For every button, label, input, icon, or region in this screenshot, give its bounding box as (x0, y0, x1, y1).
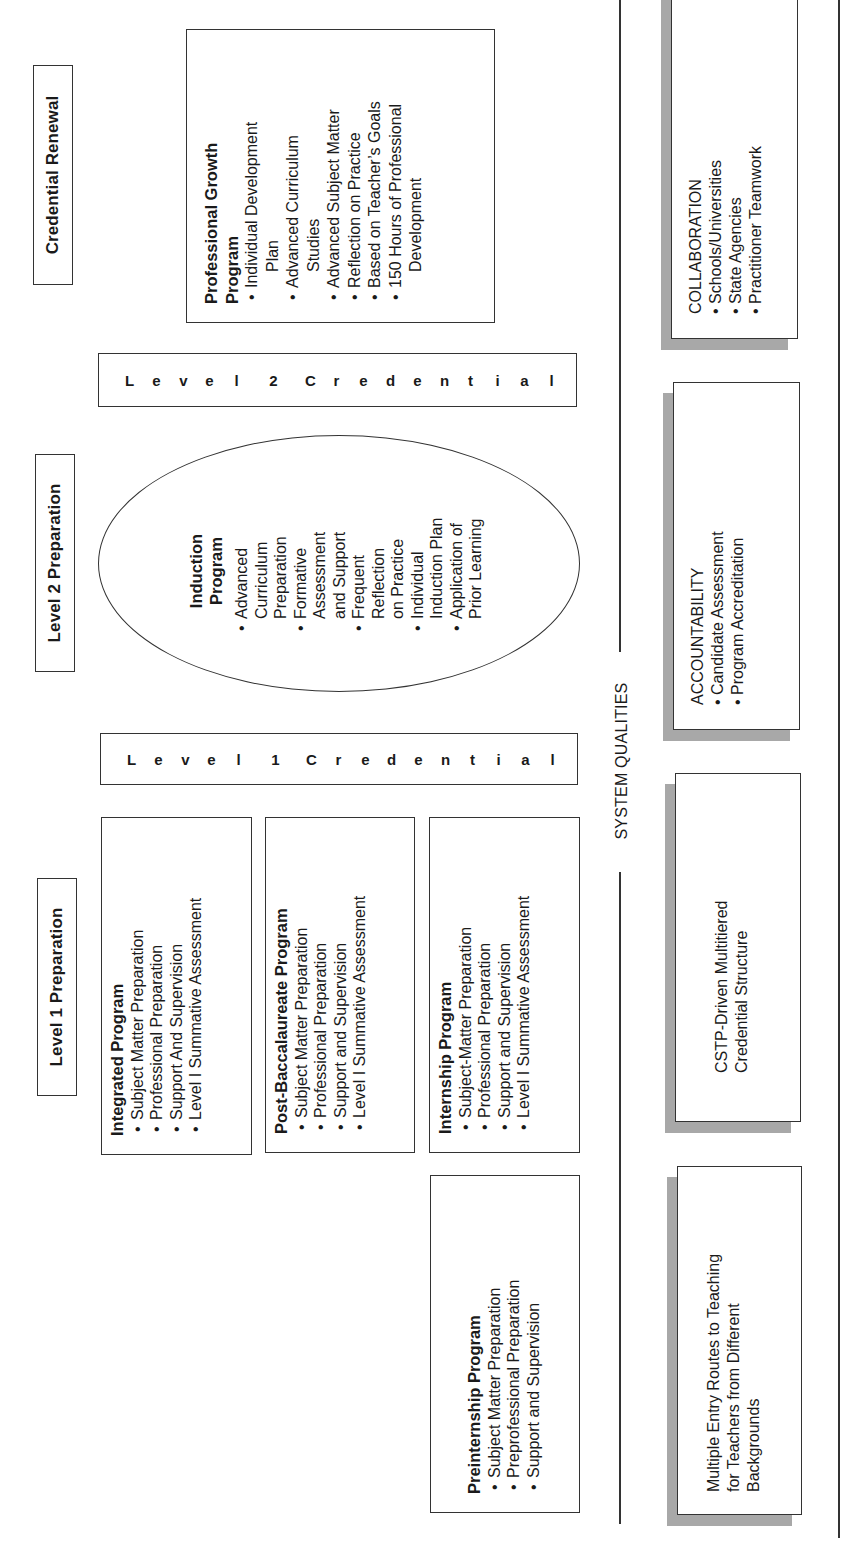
system-qualities-label: SYSTEM QUALITIES (613, 652, 631, 870)
professional-growth-item-line: Based on Teacher’s Goals (365, 30, 386, 288)
preinternship-program-title: Preinternship Program (465, 1176, 485, 1494)
level2-preparation-label: Level 2 Preparation (45, 484, 65, 643)
induction-item-line: Curriculum (252, 511, 272, 619)
credential-letter: C (305, 751, 319, 768)
credential-letter: 1 (268, 751, 282, 768)
credential-letter: l (545, 751, 559, 768)
multiple-entry-line: for Teachers from Different (724, 1167, 744, 1492)
preinternship-program-box: Preinternship Program Subject Matter Pre… (430, 1175, 580, 1513)
professional-growth-item: Reflection on Practice (345, 30, 366, 300)
induction-item-line: and Support (330, 511, 350, 619)
credential-letter: t (464, 372, 478, 389)
induction-item: Individual Induction Plan (408, 511, 447, 631)
internship-item: Professional Preparation (475, 818, 495, 1130)
collaboration-box: COLLABORATION Schools/Universities State… (671, 0, 798, 339)
credential-letter: e (412, 751, 426, 768)
induction-item: Advanced Curriculum Preparation (232, 511, 291, 631)
collaboration-item: Schools/Universities (706, 0, 726, 314)
multiple-entry-routes-box: Multiple Entry Routes to Teaching for Te… (677, 1166, 802, 1515)
credential-letter: l (232, 751, 246, 768)
induction-item-line: Formative (291, 511, 311, 619)
professional-growth-item: Advanced Subject Matter (324, 30, 345, 300)
professional-growth-program-box: Professional Growth Program Individual D… (186, 29, 495, 323)
accountability-item: Candidate Assessment (708, 383, 728, 705)
credential-renewal-header: Credential Renewal (33, 65, 73, 285)
professional-growth-item-line: Plan (263, 30, 284, 288)
integrated-item: Subject Matter Preparation (128, 818, 148, 1132)
professional-growth-item: Advanced Curriculum Studies (283, 30, 324, 300)
induction-item-line: Application of (447, 511, 467, 619)
credential-letter: l (230, 372, 244, 389)
system-qualities-divider-left (619, 872, 621, 1524)
credential-letter: r (330, 372, 344, 389)
post-bacc-item: Level I Summative Assessment (350, 818, 370, 1130)
level1-preparation-label: Level 1 Preparation (47, 908, 67, 1067)
cstp-structure-box: CSTP-Driven Multitiered Credential Struc… (675, 773, 801, 1122)
induction-program-ellipse: Induction Program Advanced Curriculum Pr… (98, 435, 580, 692)
credential-letter: i (492, 751, 506, 768)
system-qualities-bottom-divider (838, 0, 840, 1538)
collaboration-item: Practitioner Teamwork (746, 0, 766, 314)
professional-growth-item-line: Studies (304, 30, 325, 288)
credential-letter: 2 (266, 372, 280, 389)
induction-item-line: Advanced (232, 511, 252, 619)
accountability-box: ACCOUNTABILITY Candidate Assessment Prog… (673, 382, 800, 730)
credential-letter: a (518, 372, 532, 389)
professional-growth-item-line: Advanced Curriculum (283, 30, 304, 288)
collaboration-title: COLLABORATION (686, 0, 706, 314)
induction-item-line: Frequent (349, 511, 369, 619)
integrated-item: Support And Supervision (167, 818, 187, 1132)
cstp-line: CSTP-Driven Multitiered (712, 774, 732, 1073)
professional-growth-title-line2: Program (222, 30, 243, 304)
credential-letter: t (465, 751, 479, 768)
system-qualities-divider-right (619, 0, 621, 652)
professional-growth-item-line: Advanced Subject Matter (324, 30, 345, 288)
credential-letter: e (410, 372, 424, 389)
professional-growth-item: Individual Development Plan (242, 30, 283, 300)
induction-item: Application of Prior Learning (447, 511, 486, 631)
professional-growth-item: Based on Teacher’s Goals (365, 30, 386, 300)
collaboration-item: State Agencies (726, 0, 746, 314)
professional-growth-item-line: 150 Hours of Professional (386, 30, 407, 288)
post-bacc-program-title: Post-Baccalaureate Program (272, 818, 292, 1134)
level2-preparation-header: Level 2 Preparation (35, 454, 75, 672)
induction-item-line: Prior Learning (466, 511, 486, 619)
credential-letter: i (491, 372, 505, 389)
induction-item: Frequent Reflection on Practice (349, 511, 408, 631)
credential-letter: e (357, 372, 371, 389)
credential-letter: d (383, 372, 397, 389)
cstp-line: Credential Structure (732, 774, 752, 1073)
integrated-item: Professional Preparation (147, 818, 167, 1132)
induction-title-line2: Program (207, 511, 227, 631)
accountability-item: Program Accreditation (728, 383, 748, 705)
accountability-title: ACCOUNTABILITY (688, 383, 708, 705)
induction-item-line: Induction Plan (427, 511, 447, 619)
integrated-program-box: Integrated Program Subject Matter Prepar… (101, 817, 252, 1155)
credential-letter: r (331, 751, 345, 768)
level1-preparation-header: Level 1 Preparation (37, 878, 77, 1096)
credential-letter: a (519, 751, 533, 768)
professional-growth-item-line: Individual Development (242, 30, 263, 288)
induction-item: Formative Assessment and Support (291, 511, 350, 631)
induction-item-line: Individual (408, 511, 428, 619)
credential-letter: C (303, 372, 317, 389)
internship-item: Level I Summative Assessment (514, 818, 534, 1130)
post-bacc-item: Professional Preparation (311, 818, 331, 1130)
professional-growth-item: 150 Hours of Professional Development (386, 30, 427, 300)
induction-item-line: on Practice (388, 511, 408, 619)
credential-system-diagram: Level 1 Preparation Level 2 Preparation … (0, 0, 862, 1546)
level2-credential-bar: L e v e l 2 C r e d e n t i a l (98, 353, 577, 407)
credential-letter: n (437, 372, 451, 389)
integrated-item: Level I Summative Assessment (186, 818, 206, 1132)
credential-letter: d (385, 751, 399, 768)
induction-item-line: Preparation (271, 511, 291, 619)
credential-letter: e (149, 372, 163, 389)
credential-letter: L (123, 372, 137, 389)
credential-letter: n (438, 751, 452, 768)
credential-letter: e (358, 751, 372, 768)
induction-item-line: Assessment (310, 511, 330, 619)
post-baccalaureate-program-box: Post-Baccalaureate Program Subject Matte… (265, 817, 415, 1153)
credential-renewal-label: Credential Renewal (43, 96, 63, 255)
professional-growth-item-line: Development (406, 30, 427, 288)
induction-title-line1: Induction (187, 511, 207, 631)
